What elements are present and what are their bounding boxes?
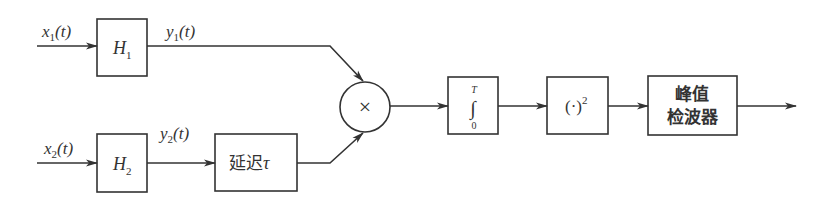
input-x1-label: x1(t)	[41, 22, 71, 43]
cross-correlation-block-diagram: x1(t) H1 y1(t) x2(t) H2 y2(t)	[0, 0, 828, 212]
integrator-block: T ∫ 0	[448, 77, 498, 134]
integral-icon: ∫	[468, 97, 477, 121]
output-y2-label: y2(t)	[158, 124, 189, 145]
multiply-icon: ×	[359, 94, 371, 119]
svg-text:H1: H1	[112, 38, 132, 61]
peak-detector-block: 峰值 检波器	[648, 76, 737, 135]
delayed-signal-path	[297, 133, 363, 163]
svg-text:T: T	[471, 84, 478, 95]
output-y2: y2(t)	[147, 124, 215, 163]
input-x1: x1(t)	[37, 22, 97, 46]
input-x2-label: x2(t)	[43, 139, 73, 160]
svg-text:检波器: 检波器	[667, 107, 719, 127]
square-block: (·)2	[547, 77, 608, 134]
y1-signal-path	[147, 46, 363, 81]
svg-text:延迟τ: 延迟τ	[229, 153, 270, 173]
filter-h2-block: H2	[97, 134, 147, 192]
multiplier-node: ×	[340, 82, 390, 132]
output-y1: y1(t)	[147, 22, 363, 81]
svg-text:H2: H2	[112, 154, 132, 177]
svg-text:(·)2: (·)2	[565, 94, 587, 116]
svg-text:0: 0	[472, 120, 477, 131]
output-y1-label: y1(t)	[164, 22, 195, 43]
filter-h1-block: H1	[97, 19, 147, 76]
delay-block: 延迟τ	[215, 134, 297, 191]
input-x2: x2(t)	[37, 139, 97, 163]
svg-text:峰值: 峰值	[675, 84, 709, 104]
